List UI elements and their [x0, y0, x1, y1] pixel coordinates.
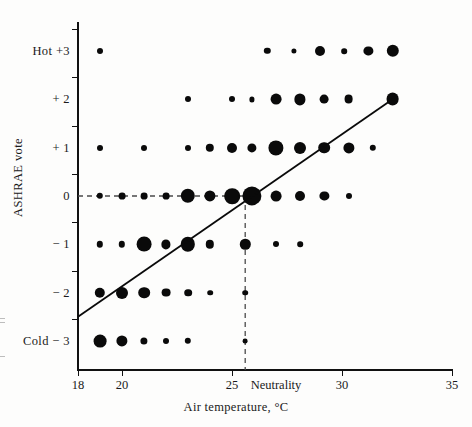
neutrality-annotation-label: Neutrality	[251, 379, 302, 392]
y-axis-tick-label: Hot +3	[32, 45, 70, 58]
x-axis-tick-mark	[232, 370, 233, 376]
x-axis-tick-mark	[78, 370, 79, 376]
y-axis-tick-label: 0	[63, 190, 70, 203]
x-axis-tick-mark	[452, 370, 453, 376]
y-axis-tick-mark	[72, 222, 78, 223]
x-axis-tick-mark	[122, 370, 123, 376]
regression-line	[78, 22, 452, 370]
y-axis-tick-label: + 2	[52, 93, 70, 106]
x-axis-tick-label: 35	[446, 379, 459, 392]
x-axis-tick-mark	[342, 370, 343, 376]
x-axis-title: Air temperature, °C	[0, 400, 472, 415]
scan-artifact	[0, 322, 5, 323]
thermal-comfort-scatter-chart: Hot +3+ 2+ 10− 1− 2Cold − 3 Neutrality A…	[0, 0, 472, 427]
y-axis-tick-mark	[72, 29, 78, 30]
y-axis-tick-mark	[72, 319, 78, 320]
x-axis-tick-label: 18	[72, 379, 85, 392]
y-axis-tick-mark	[72, 126, 78, 127]
x-axis-tick-label: 25	[226, 379, 239, 392]
x-axis-tick-label: 20	[116, 379, 129, 392]
regression-trend-line	[78, 99, 393, 317]
y-axis-title: ASHRAE vote	[11, 108, 26, 248]
scan-artifact	[0, 356, 5, 357]
y-axis-tick-label: + 1	[52, 142, 70, 155]
y-axis-tick-label: − 1	[52, 238, 70, 251]
y-axis-tick-mark	[72, 174, 78, 175]
y-axis-tick-mark	[72, 271, 78, 272]
scan-artifact	[0, 318, 5, 319]
y-axis-tick-mark	[72, 77, 78, 78]
y-axis-tick-label: Cold − 3	[23, 335, 70, 348]
y-axis-tick-label: − 2	[52, 287, 70, 300]
plot-area	[78, 22, 452, 370]
x-axis-tick-label: 30	[336, 379, 349, 392]
